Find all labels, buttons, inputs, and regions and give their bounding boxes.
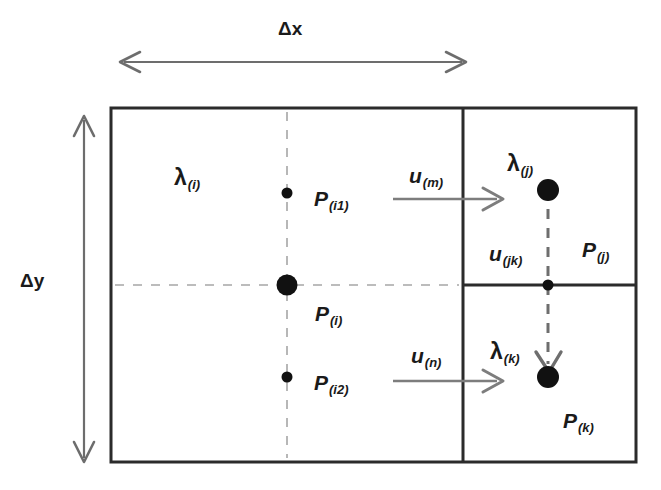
dot-p-i2 bbox=[282, 372, 293, 383]
delta-y-text: Δy bbox=[20, 270, 44, 291]
dot-p-j bbox=[537, 179, 559, 201]
dot-u-jk bbox=[543, 280, 554, 291]
dot-p-i1 bbox=[282, 188, 293, 199]
diagram-vector-layer bbox=[0, 0, 661, 490]
pressure-cell-k-label: P(k) bbox=[563, 410, 594, 434]
velocity-u-m-symbol: u bbox=[409, 164, 422, 187]
lambda-j-subscript: (j) bbox=[520, 163, 533, 178]
pressure-i1-symbol: P bbox=[314, 187, 328, 210]
lambda-k-subscript: (k) bbox=[503, 351, 520, 366]
pressure-k-subscript: (k) bbox=[577, 420, 594, 435]
pressure-j-subscript: (j) bbox=[596, 249, 609, 264]
pressure-cell-i-label: P(i) bbox=[315, 303, 342, 327]
velocity-u-n-label: u(n) bbox=[411, 345, 441, 369]
figure-canvas: Δx Δy λ(i) P(i1) u(m) λ(j) u(jk) P(j) P(… bbox=[0, 0, 661, 490]
pressure-j-symbol: P bbox=[582, 238, 596, 261]
velocity-u-jk-subscript: (jk) bbox=[502, 253, 523, 268]
lambda-j-symbol: λ bbox=[507, 150, 520, 176]
velocity-u-m-subscript: (m) bbox=[422, 175, 443, 190]
lambda-i-subscript: (i) bbox=[187, 177, 200, 192]
pressure-i1-subscript: (i1) bbox=[328, 198, 349, 213]
flow-arrow-u-n bbox=[393, 370, 503, 392]
velocity-u-m-label: u(m) bbox=[409, 165, 443, 189]
delta-x-dimension-arrow bbox=[120, 52, 466, 72]
lambda-i-symbol: λ bbox=[174, 164, 187, 190]
delta-x-label: Δx bbox=[278, 19, 302, 38]
pressure-node-i1-label: P(i1) bbox=[314, 188, 349, 212]
pressure-i-subscript: (i) bbox=[329, 313, 342, 328]
delta-x-text: Δx bbox=[278, 18, 302, 39]
pressure-k-symbol: P bbox=[563, 409, 577, 432]
velocity-u-n-subscript: (n) bbox=[424, 355, 442, 370]
lambda-i-label: λ(i) bbox=[174, 166, 200, 191]
pressure-node-i2-label: P(i2) bbox=[314, 372, 349, 396]
lambda-k-symbol: λ bbox=[490, 338, 503, 364]
delta-y-dimension-arrow bbox=[74, 116, 94, 462]
pressure-cell-j-label: P(j) bbox=[582, 239, 609, 263]
dot-p-i bbox=[277, 275, 298, 296]
dot-p-k bbox=[537, 366, 559, 388]
flow-arrow-u-m bbox=[393, 188, 503, 210]
delta-y-label: Δy bbox=[20, 271, 44, 290]
lambda-j-label: λ(j) bbox=[507, 152, 533, 177]
velocity-u-jk-symbol: u bbox=[489, 242, 502, 265]
velocity-u-n-symbol: u bbox=[411, 344, 424, 367]
pressure-i2-subscript: (i2) bbox=[328, 382, 349, 397]
pressure-i2-symbol: P bbox=[314, 371, 328, 394]
pressure-i-symbol: P bbox=[315, 302, 329, 325]
lambda-k-label: λ(k) bbox=[490, 340, 520, 365]
velocity-u-jk-label: u(jk) bbox=[489, 243, 522, 267]
